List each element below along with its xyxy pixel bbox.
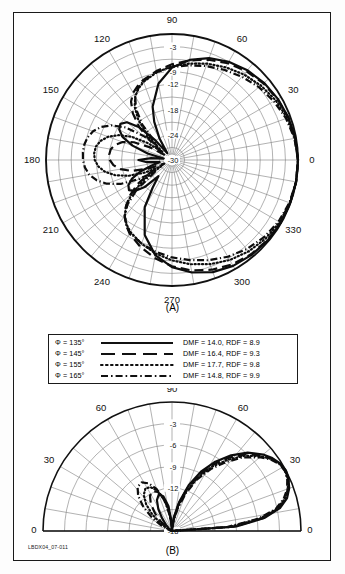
legend-line-sample-solid bbox=[99, 338, 177, 348]
angular-tick-label: 30 bbox=[288, 84, 299, 95]
angular-tick-label: 60 bbox=[237, 33, 248, 44]
angular-tick-label: 180 bbox=[24, 154, 40, 165]
legend-line-sample-dashdot bbox=[99, 371, 177, 381]
angular-tick-label: 210 bbox=[43, 224, 59, 235]
legend-values: DMF = 14.8, RDF = 9.9 bbox=[183, 371, 260, 380]
radial-tick-label: -6 bbox=[170, 441, 177, 450]
radial-tick-label: -30 bbox=[168, 156, 179, 165]
legend-item: Φ = 135° DMF = 14.0, RDF = 8.9 bbox=[55, 337, 291, 348]
angular-tick-label: 60 bbox=[238, 402, 249, 413]
panel-a-caption: (A) bbox=[0, 302, 345, 313]
polar-chart-a: 0306090120150180210240270300330-3-9-12-1… bbox=[13, 12, 331, 322]
angular-tick-label: 0 bbox=[309, 154, 314, 165]
legend-phi-label: Φ = 145° bbox=[55, 349, 99, 358]
legend-phi-label: Φ = 165° bbox=[55, 371, 99, 380]
legend-item: Φ = 145° DMF = 16.4, RDF = 9.3 bbox=[55, 348, 291, 359]
series-line-dashdot bbox=[83, 65, 298, 260]
angular-tick-label: 0 bbox=[307, 524, 312, 535]
radial-tick-label: -12 bbox=[168, 484, 179, 493]
legend-line-sample-dotted bbox=[99, 360, 177, 370]
polar-chart-b: 030609060300-3-6-9-12-18 bbox=[13, 388, 331, 561]
legend: Φ = 135° DMF = 14.0, RDF = 8.9 Φ = 145° … bbox=[48, 334, 298, 384]
angular-tick-label: 150 bbox=[43, 84, 59, 95]
angular-tick-label: 90 bbox=[167, 388, 178, 394]
radial-tick-label: -12 bbox=[168, 80, 179, 89]
angular-tick-label: 330 bbox=[285, 224, 301, 235]
legend-values: DMF = 16.4, RDF = 9.3 bbox=[183, 349, 260, 358]
angular-tick-label: 300 bbox=[234, 276, 250, 287]
legend-box: Φ = 135° DMF = 14.0, RDF = 8.9 Φ = 145° … bbox=[48, 334, 298, 384]
legend-phi-label: Φ = 155° bbox=[55, 360, 99, 369]
figure-root: 0306090120150180210240270300330-3-9-12-1… bbox=[0, 0, 345, 574]
polar-chart-b-canvas: 030609060300-3-6-9-12-18 bbox=[13, 388, 331, 561]
legend-line-sample-dashed bbox=[99, 349, 177, 359]
radial-tick-label: -24 bbox=[168, 131, 179, 140]
angular-tick-label: 0 bbox=[31, 524, 36, 535]
legend-values: DMF = 17.7, RDF = 9.8 bbox=[183, 360, 260, 369]
angular-tick-label: 240 bbox=[94, 276, 110, 287]
document-id-label: LBDX04_07-011 bbox=[28, 544, 68, 550]
radial-tick-label: -3 bbox=[170, 420, 177, 429]
legend-values: DMF = 14.0, RDF = 8.9 bbox=[183, 338, 260, 347]
radial-tick-label: -3 bbox=[170, 43, 177, 52]
angular-tick-label: 60 bbox=[96, 402, 107, 413]
legend-item: Φ = 165° DMF = 14.8, RDF = 9.9 bbox=[55, 370, 291, 381]
angular-tick-label: 120 bbox=[94, 33, 110, 44]
angular-tick-label: 90 bbox=[167, 14, 178, 25]
radial-tick-label: -18 bbox=[168, 106, 179, 115]
radial-tick-label: -9 bbox=[170, 463, 177, 472]
legend-phi-label: Φ = 135° bbox=[55, 338, 99, 347]
polar-chart-a-canvas: 0306090120150180210240270300330-3-9-12-1… bbox=[13, 12, 331, 322]
angular-tick-label: 30 bbox=[44, 454, 55, 465]
legend-item: Φ = 155° DMF = 17.7, RDF = 9.8 bbox=[55, 359, 291, 370]
angular-tick-label: 30 bbox=[290, 454, 301, 465]
